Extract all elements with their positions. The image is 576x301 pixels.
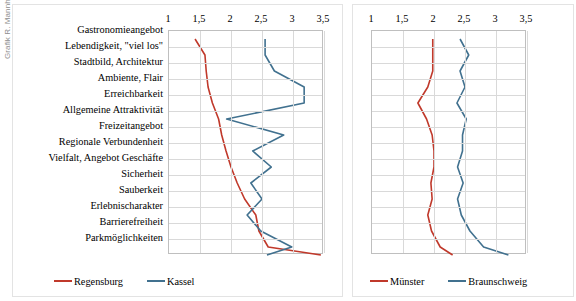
legend-left: RegensburgKassel: [18, 272, 364, 290]
axis-tick-label: 1: [368, 11, 373, 27]
horizontal-gridline: [372, 127, 525, 128]
horizontal-gridline: [169, 175, 322, 176]
category-label: Regionale Verbundenheit: [59, 134, 163, 151]
plot-area-right: [371, 30, 526, 254]
axis-tick-label: 1,5: [193, 11, 206, 27]
legend-item[interactable]: Regensburg: [54, 276, 123, 287]
legend-item[interactable]: Braunschweig: [448, 276, 527, 287]
vertical-gridline: [231, 31, 232, 253]
axis-tick-label: 3: [492, 11, 497, 27]
axis-tick-label: 3: [289, 11, 294, 27]
horizontal-gridline: [372, 111, 525, 112]
legend-label: Kassel: [167, 276, 194, 287]
horizontal-gridline: [169, 191, 322, 192]
vertical-gridline: [262, 31, 263, 253]
value-axis-ticks-left: 11,522,533,5: [168, 11, 323, 27]
axis-tick-label: 1,5: [396, 11, 409, 27]
horizontal-gridline: [372, 63, 525, 64]
axis-tick-label: 2,5: [458, 11, 471, 27]
category-label: Ambiente, Flair: [98, 70, 163, 87]
category-label: Erreichbarkeit: [104, 86, 163, 103]
horizontal-gridline: [372, 79, 525, 80]
legend-line-swatch: [54, 280, 72, 282]
legend-line-swatch: [370, 280, 388, 282]
legend-right: MünsterBraunschweig: [356, 272, 576, 290]
legend-line-swatch: [147, 280, 165, 282]
horizontal-gridline: [372, 159, 525, 160]
horizontal-gridline: [169, 223, 322, 224]
category-axis-labels: GastronomieangebotLebendigkeit, "viel lo…: [0, 22, 166, 254]
vertical-gridline: [465, 31, 466, 253]
axis-tick-label: 2,5: [255, 11, 268, 27]
legend-item[interactable]: Kassel: [147, 276, 194, 287]
category-label: Gastronomieangebot: [77, 22, 163, 39]
horizontal-gridline: [169, 111, 322, 112]
horizontal-gridline: [372, 191, 525, 192]
horizontal-gridline: [372, 239, 525, 240]
category-label: Stadtbild, Architektur: [74, 54, 163, 71]
axis-tick-label: 2: [430, 11, 435, 27]
legend-line-swatch: [448, 280, 466, 282]
category-label: Freizeitangebot: [99, 118, 163, 135]
axis-tick-label: 3,5: [520, 11, 533, 27]
horizontal-gridline: [169, 239, 322, 240]
axis-tick-label: 3,5: [317, 11, 330, 27]
horizontal-gridline: [372, 143, 525, 144]
category-label: Allgemeine Attraktivität: [63, 102, 163, 119]
horizontal-gridline: [372, 47, 525, 48]
legend-label: Regensburg: [74, 276, 123, 287]
horizontal-gridline: [372, 223, 525, 224]
category-label: Lebendigkeit, "viel los": [65, 38, 163, 55]
horizontal-gridline: [372, 207, 525, 208]
horizontal-gridline: [169, 79, 322, 80]
category-label: Barrierefreiheit: [100, 214, 163, 231]
vertical-gridline: [293, 31, 294, 253]
category-label: Erlebnischarakter: [90, 198, 163, 215]
value-axis-ticks-right: 11,522,533,5: [371, 11, 526, 27]
plot-area-left: [168, 30, 323, 254]
axis-tick-label: 2: [227, 11, 232, 27]
category-label: Sauberkeit: [119, 182, 163, 199]
horizontal-gridline: [169, 47, 322, 48]
vertical-gridline: [527, 31, 528, 253]
legend-label: Münster: [390, 276, 424, 287]
vertical-gridline: [324, 31, 325, 253]
axis-tick-label: 1: [165, 11, 170, 27]
horizontal-gridline: [169, 63, 322, 64]
legend-item[interactable]: Münster: [370, 276, 424, 287]
horizontal-gridline: [169, 95, 322, 96]
chart-figure: Grafik R. Mannheim GastronomieangebotLeb…: [0, 0, 576, 301]
vertical-gridline: [434, 31, 435, 253]
category-label: Vielfalt, Angebot Geschäfte: [48, 150, 163, 167]
vertical-gridline: [496, 31, 497, 253]
horizontal-gridline: [372, 175, 525, 176]
vertical-gridline: [403, 31, 404, 253]
horizontal-gridline: [169, 143, 322, 144]
horizontal-gridline: [169, 159, 322, 160]
legend-label: Braunschweig: [468, 276, 527, 287]
category-label: Parkmöglichkeiten: [85, 230, 163, 247]
horizontal-gridline: [169, 127, 322, 128]
horizontal-gridline: [372, 95, 525, 96]
vertical-gridline: [200, 31, 201, 253]
category-label: Sicherheit: [121, 166, 163, 183]
horizontal-gridline: [169, 207, 322, 208]
